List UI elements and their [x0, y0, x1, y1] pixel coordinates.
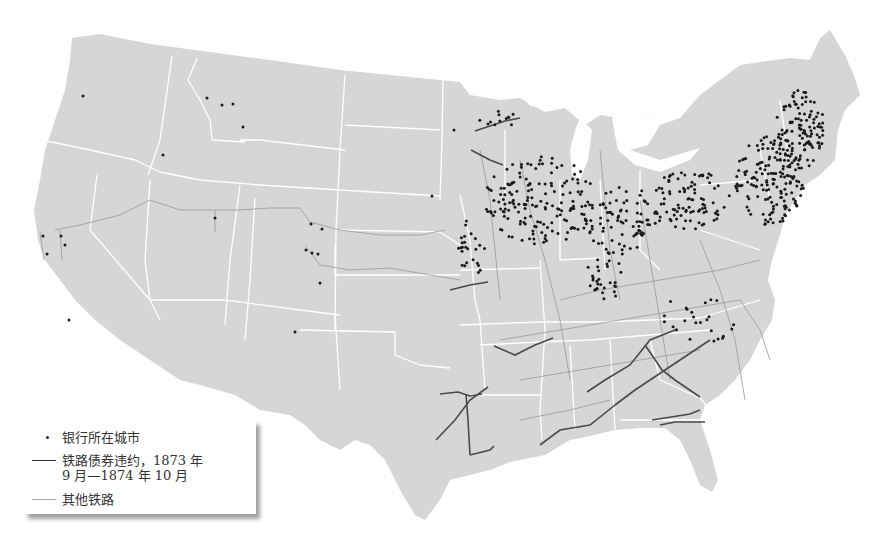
dot-icon [24, 430, 62, 445]
map-legend: 银行所在城市 铁路债券违约，1873 年 9 月—1874 年 10 月 其他铁… [24, 420, 256, 514]
legend-label-other-railroads: 其他铁路 [62, 492, 114, 507]
legend-item-other-railroads: 其他铁路 [24, 492, 114, 507]
legend-item-defaulted-railroads: 铁路债券违约，1873 年 9 月—1874 年 10 月 [24, 453, 203, 483]
lake-superior [520, 90, 590, 108]
legend-label-bank-cities: 银行所在城市 [62, 430, 140, 445]
light-line-icon [24, 492, 62, 507]
dark-line-icon [24, 453, 62, 468]
legend-item-bank-cities: 银行所在城市 [24, 430, 140, 445]
legend-label-defaulted-railroads: 铁路债券违约，1873 年 9 月—1874 年 10 月 [62, 453, 203, 483]
